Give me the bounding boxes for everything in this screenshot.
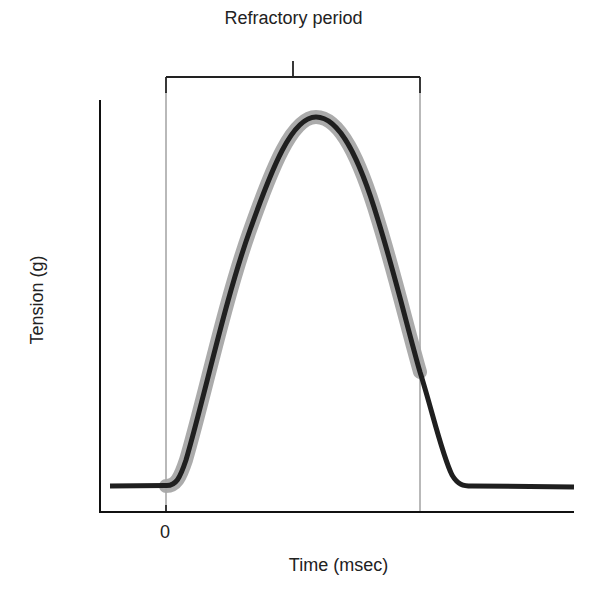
y-axis-label: Tension (g) bbox=[27, 255, 48, 344]
refractory-bracket bbox=[166, 61, 420, 93]
x-tick-label-zero: 0 bbox=[160, 522, 170, 543]
refractory-highlight bbox=[166, 117, 420, 486]
refractory-period-label: Refractory period bbox=[0, 8, 613, 29]
twitch-tension-chart: Refractory period Tension (g) 0 Time (ms… bbox=[0, 0, 613, 589]
chart-canvas bbox=[0, 0, 613, 589]
x-axis-label: Time (msec) bbox=[0, 555, 613, 576]
tension-curve bbox=[110, 117, 574, 487]
